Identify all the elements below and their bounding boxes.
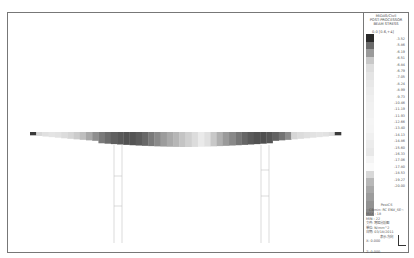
deck-element — [161, 132, 168, 147]
deck-element — [136, 132, 143, 146]
deck-element — [291, 132, 298, 139]
deck-element — [167, 132, 174, 147]
legend-title-line: BEAM STRESS — [364, 22, 408, 26]
deck-element — [98, 132, 105, 143]
deck-element — [92, 132, 99, 141]
deck-element — [105, 132, 112, 144]
deck-element — [273, 132, 280, 141]
deck-element — [297, 132, 304, 139]
legend-ticks: -3.52-5.86-6.19-6.51-6.84-6.79-7.05-8.24… — [378, 36, 408, 189]
deck-element — [223, 132, 230, 146]
deck-element — [49, 132, 56, 137]
legend-title: MIDAS/Civil POST-PROCESSOR BEAM STRESS — [364, 14, 408, 27]
color-bar-swatch — [366, 125, 374, 133]
deck-element — [310, 132, 317, 138]
color-bar-swatch — [366, 102, 374, 110]
deck-element — [42, 132, 49, 137]
deck-element — [266, 132, 273, 143]
deck-element — [148, 132, 155, 146]
deck-element — [36, 132, 43, 136]
axis-triad-icon — [396, 235, 406, 247]
deck-element — [229, 132, 236, 146]
deck-element — [304, 132, 311, 138]
color-bar-swatch — [366, 140, 374, 148]
deck-element — [192, 132, 199, 147]
deck-element — [30, 132, 37, 135]
deck-element — [204, 132, 211, 147]
view-coord: Z: 0.000 — [366, 250, 407, 255]
model-viewport[interactable] — [8, 13, 363, 252]
legend-header: 0.0 [0.6,+4] — [372, 30, 408, 34]
color-bar-swatch — [366, 171, 374, 179]
deck-element — [198, 132, 205, 147]
deck-element — [74, 132, 81, 139]
color-bar-swatch — [366, 156, 374, 164]
color-bar-swatch — [366, 57, 374, 65]
color-bar-swatch — [366, 118, 374, 126]
deck-element — [217, 132, 224, 146]
color-bar-swatch — [366, 72, 374, 80]
color-bar-swatch — [366, 178, 374, 186]
deck-element — [111, 132, 118, 144]
deck-element — [130, 132, 137, 145]
deck-element — [316, 132, 323, 137]
color-bar-swatch — [366, 80, 374, 88]
color-bar-swatch — [366, 133, 374, 141]
color-bar-swatch — [366, 148, 374, 156]
deck-element — [117, 132, 124, 145]
deck-element — [285, 132, 292, 140]
color-bar-swatch — [366, 87, 374, 95]
deck-element — [254, 132, 261, 144]
deck-element — [235, 132, 242, 145]
deck-element — [186, 132, 193, 147]
deck-element — [241, 132, 248, 145]
deck-element — [55, 132, 62, 138]
deck-element — [67, 132, 74, 139]
deck-element — [80, 132, 87, 140]
deck-element — [260, 132, 267, 144]
color-bar-swatch — [366, 193, 374, 201]
deck-element — [279, 132, 286, 140]
deck-element — [322, 132, 329, 137]
color-bar — [366, 34, 374, 194]
color-bar-swatch — [366, 163, 374, 171]
color-bar-swatch — [366, 186, 374, 194]
color-bar-swatch — [366, 95, 374, 103]
deck-element — [61, 132, 68, 138]
deck-element — [142, 132, 149, 146]
deck-element — [86, 132, 93, 140]
deck-element — [154, 132, 161, 146]
color-bar-swatch — [366, 42, 374, 50]
legend-tick-label: -20.00 — [378, 183, 408, 189]
color-bar-swatch — [366, 49, 374, 57]
color-bar-swatch — [366, 34, 374, 42]
color-bar-swatch — [366, 64, 374, 72]
color-bar-swatch — [366, 110, 374, 118]
deck-element — [179, 132, 186, 147]
deck-element — [173, 132, 180, 147]
bridge-model — [8, 13, 363, 252]
deck-element — [329, 132, 336, 136]
deck-element — [210, 132, 217, 146]
deck-element — [123, 132, 130, 145]
contour-legend: MIDAS/Civil POST-PROCESSOR BEAM STRESS 0… — [363, 13, 408, 252]
results-window: MIDAS/Civil POST-PROCESSOR BEAM STRESS 0… — [7, 12, 409, 253]
deck-element — [335, 132, 342, 135]
deck-element — [248, 132, 255, 145]
